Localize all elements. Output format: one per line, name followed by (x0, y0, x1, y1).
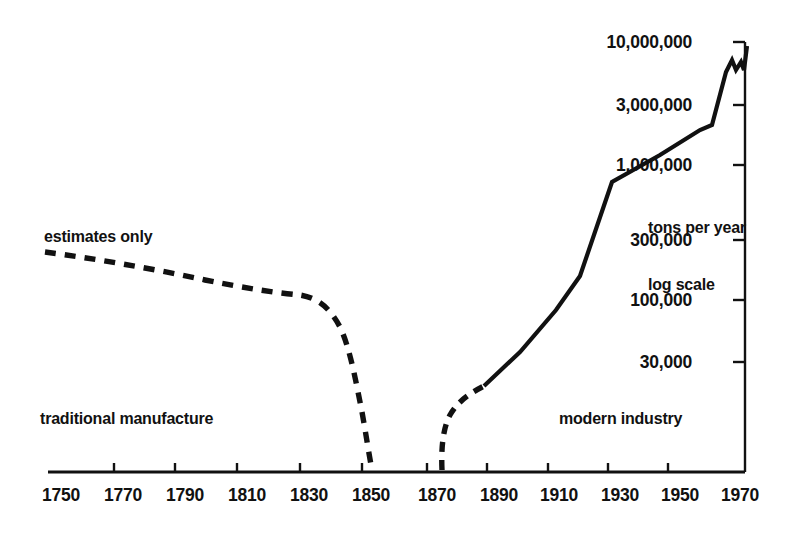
series-traditional-dashed (45, 252, 372, 470)
x-tick-label-1850: 1850 (352, 485, 390, 506)
x-tick-label-1970: 1970 (721, 485, 759, 506)
x-tick-label-1770: 1770 (104, 485, 142, 506)
x-tick-label-1790: 1790 (166, 485, 204, 506)
annotation-traditional-manufacture: traditional manufacture (40, 410, 213, 428)
x-tick-label-1890: 1890 (480, 485, 518, 506)
y-axis-units-line-1: tons per year (648, 218, 746, 237)
x-tick-label-1910: 1910 (540, 485, 578, 506)
x-tick-label-1810: 1810 (228, 485, 266, 506)
x-tick-label-1750: 1750 (42, 485, 80, 506)
y-tick-label-1000000: 1,000,000 (542, 155, 692, 176)
y-tick-label-10000000: 10,000,000 (542, 32, 692, 53)
y-axis-scale-line-2: log scale (648, 275, 746, 294)
annotation-modern-industry: modern industry (559, 410, 682, 428)
y-tick-label-30000: 30,000 (542, 352, 692, 373)
chart-figure: 10,000,000 3,000,000 1,000,000 300,000 1… (0, 0, 792, 536)
annotation-estimates-only: estimates only (44, 228, 152, 246)
x-tick-label-1830: 1830 (290, 485, 328, 506)
y-tick-label-3000000: 3,000,000 (542, 95, 692, 116)
x-tick-label-1930: 1930 (601, 485, 639, 506)
x-tick-label-1870: 1870 (418, 485, 456, 506)
x-tick-label-1950: 1950 (661, 485, 699, 506)
series-modern-dashed (442, 385, 486, 470)
y-axis-units-annotation: tons per year log scale (648, 180, 746, 332)
